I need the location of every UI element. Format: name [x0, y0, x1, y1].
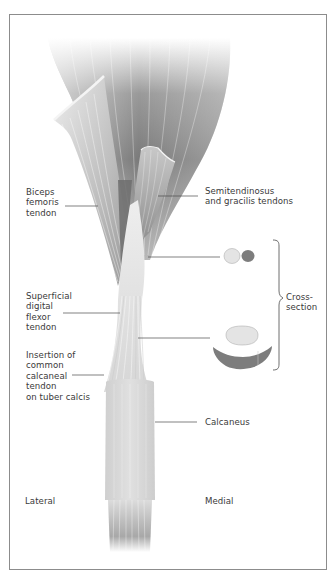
label-lateral: Lateral [25, 496, 55, 506]
label-biceps-femoris-tendon: Biceps femoris tendon [26, 187, 59, 218]
lower-tendon-strands [108, 500, 152, 552]
label-medial: Medial [205, 496, 234, 506]
calcaneus [105, 379, 155, 500]
label-superficial-digital-flexor-tendon: Superficial digital flexor tendon [26, 291, 72, 333]
label-semitendinosus-gracilis-tendons: Semitendinosus and gracilis tendons [205, 186, 293, 207]
label-calcaneus: Calcaneus [205, 417, 250, 427]
cross-section-upper [224, 249, 255, 264]
label-insertion-calcaneal-tendon: Insertion of common calcaneal tendon on … [26, 350, 90, 402]
tendon-illustration [0, 0, 336, 574]
label-cross-section: Cross- section [286, 292, 317, 313]
cross-section-bracket [273, 240, 283, 370]
cross-section-lower [213, 326, 272, 369]
